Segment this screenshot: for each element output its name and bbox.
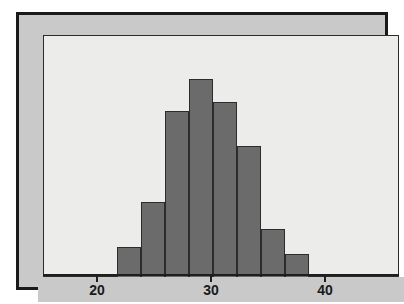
histogram-bar: [165, 111, 189, 297]
plot-panel: [43, 35, 399, 277]
histogram-bar: [213, 102, 237, 297]
figure-frame: 203040: [16, 12, 388, 290]
x-axis-tick-label: 20: [77, 281, 117, 299]
plot-area: [69, 57, 404, 297]
x-axis-tick-label: 30: [191, 281, 231, 299]
x-axis-tick-label: 40: [305, 281, 345, 299]
histogram-bar: [189, 79, 213, 297]
histogram-figure: 203040: [0, 0, 404, 304]
